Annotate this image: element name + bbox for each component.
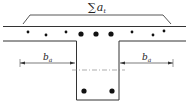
rebar-web <box>81 88 86 93</box>
left-width-label: ba <box>43 52 53 63</box>
t-beam-diagram: ∑at ba ba <box>0 0 192 111</box>
rebar-small <box>152 34 155 37</box>
rebar-small <box>131 31 134 34</box>
rebar-small <box>163 30 166 33</box>
rebar-small <box>27 31 30 34</box>
flange-large-bars <box>78 31 113 36</box>
right-width-label: ba <box>142 52 152 63</box>
rebar-web <box>109 88 114 93</box>
rebar-large <box>78 31 83 36</box>
rebar-small <box>65 31 68 34</box>
sum-label: ∑at <box>88 1 106 14</box>
rebar-small <box>45 34 48 37</box>
sum-bracket <box>23 15 171 24</box>
rebar-large <box>93 31 98 36</box>
rebar-large <box>108 31 113 36</box>
web-bottom-bars <box>81 88 114 93</box>
